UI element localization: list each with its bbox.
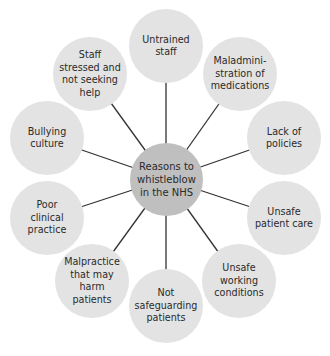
node-malpractice-that-may-harm-patients: Malpractice that may harm patients [55,244,129,318]
node-unsafe-patient-care: Unsafe patient care [247,181,321,255]
node-label: Unsafe patient care [255,206,313,231]
node-not-safeguarding-patients: Not safeguarding patients [129,269,203,343]
node-lack-of-policies: Lack of policies [247,101,321,175]
central-topic-node: Reasons to whistleblow in the NHS [130,143,203,216]
node-label: Not safeguarding patients [135,287,198,325]
node-bullying-culture: Bullying culture [10,101,84,175]
node-poor-clinical-practice: Poor clinical practice [10,181,84,255]
node-maladministration-of-medications: Maladmini- stration of medications [203,37,277,111]
node-label: Unsafe working conditions [214,262,263,300]
node-label: Untrained staff [142,34,189,59]
node-staff-stressed: Staff stressed and not seeking help [53,37,127,111]
node-unsafe-working-conditions: Unsafe working conditions [202,244,276,318]
node-label: Malpractice that may harm patients [59,256,125,306]
node-untrained-staff: Untrained staff [129,9,203,83]
node-label: Maladmini- stration of medications [211,55,270,93]
central-topic-label: Reasons to whistleblow in the NHS [137,160,196,199]
node-label: Lack of policies [266,126,302,151]
node-label: Staff stressed and not seeking help [59,49,120,99]
node-label: Bullying culture [28,126,67,151]
node-label: Poor clinical practice [28,199,67,237]
